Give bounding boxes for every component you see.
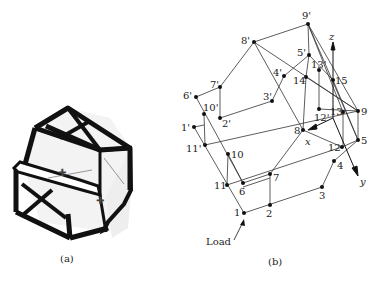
truss-node bbox=[356, 138, 360, 142]
truss-node bbox=[301, 128, 305, 132]
node-label: 11' bbox=[186, 143, 201, 154]
figure-a-caption: (a) bbox=[60, 253, 74, 264]
node-label: 9' bbox=[302, 10, 311, 21]
node-label: 14 bbox=[293, 75, 306, 86]
node-label: 6 bbox=[239, 186, 245, 197]
node-label: 15 bbox=[335, 75, 348, 86]
node-label: 10' bbox=[203, 102, 218, 113]
node-label: 3 bbox=[319, 190, 325, 201]
node-label: 10 bbox=[231, 149, 244, 160]
node-label: 11 bbox=[214, 180, 227, 191]
node-label: 6' bbox=[183, 90, 192, 101]
z-axis-label: z bbox=[328, 31, 335, 42]
node-label: 5 bbox=[361, 135, 367, 146]
truss-node bbox=[226, 152, 230, 156]
truss-node bbox=[192, 125, 196, 129]
y-axis-label: y bbox=[359, 176, 366, 187]
truss-node bbox=[194, 95, 198, 99]
node-label: 13 bbox=[330, 106, 343, 117]
node-label: 7 bbox=[273, 172, 279, 183]
truss-node bbox=[203, 143, 207, 147]
node-label: 5' bbox=[297, 47, 306, 58]
truss-node bbox=[306, 22, 310, 26]
node-label: 9 bbox=[361, 106, 367, 117]
truss-node bbox=[317, 107, 321, 111]
figure-b-caption: (b) bbox=[268, 256, 282, 267]
node-label: 1 bbox=[234, 207, 240, 218]
node-label: 1' bbox=[181, 122, 190, 133]
truss-node bbox=[356, 109, 360, 113]
node-label: 8' bbox=[241, 35, 250, 46]
truss-node bbox=[252, 40, 256, 44]
svg-text:✚: ✚ bbox=[96, 195, 104, 206]
truss-node bbox=[242, 211, 246, 215]
node-label: 2' bbox=[222, 118, 231, 129]
truss-node bbox=[320, 185, 324, 189]
node-label: 13' bbox=[311, 59, 326, 70]
x-axis-label: x bbox=[305, 136, 311, 147]
node-labels: 9'8'5'13'4'14157'6'3'10'12'1392'1'811'12… bbox=[181, 10, 367, 219]
node-label: 4' bbox=[273, 67, 282, 78]
load-label: Load bbox=[206, 236, 232, 247]
node-label: 2 bbox=[266, 208, 272, 219]
node-label: 12' bbox=[314, 112, 329, 123]
truss-node bbox=[332, 159, 336, 163]
node-label: 7' bbox=[210, 79, 219, 90]
node-label: 3' bbox=[263, 91, 272, 102]
figure-canvas: ✚ ✚ (a) bbox=[0, 0, 379, 281]
truss-node bbox=[307, 53, 311, 57]
node-label: 8 bbox=[294, 125, 300, 136]
node-label: 12 bbox=[328, 142, 341, 153]
truss-node bbox=[241, 181, 245, 185]
truss-node bbox=[268, 203, 272, 207]
truss-node bbox=[268, 172, 272, 176]
svg-text:✚: ✚ bbox=[58, 167, 66, 178]
node-label: 4 bbox=[337, 160, 343, 171]
figure-a-frame-drawing: ✚ ✚ bbox=[14, 108, 132, 238]
load-arrow bbox=[234, 219, 245, 240]
truss-node bbox=[282, 74, 286, 78]
